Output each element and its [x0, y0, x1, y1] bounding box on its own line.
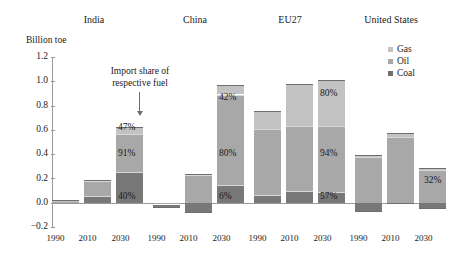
segment-coal-negative	[419, 203, 446, 210]
group-header-india: India	[44, 14, 144, 25]
segment-gas	[318, 80, 345, 126]
segment-oil	[217, 95, 244, 186]
ytick-label-0-6: 0.6	[22, 125, 48, 135]
legend-swatch-gas-icon	[388, 47, 393, 52]
legend-item-oil[interactable]: Oil	[388, 55, 415, 67]
bar-eu27-2010[interactable]	[286, 57, 313, 227]
annotation-line-2: respective fuel	[112, 78, 168, 88]
ytick-label-0-8: 0.8	[22, 101, 48, 111]
legend-swatch-coal-icon	[388, 71, 393, 76]
segment-gas	[286, 84, 313, 126]
callout-china-gas: 42%	[219, 92, 236, 102]
segment-oil	[318, 126, 345, 192]
callout-united-states-oil: 32%	[424, 175, 441, 185]
annotation-line-1: Import share of	[111, 66, 170, 76]
xtick-label-eu27-2010: 2010	[276, 233, 303, 243]
callout-india-oil: 91%	[118, 148, 135, 158]
bar-united-states-2010[interactable]	[387, 57, 414, 227]
xtick-label-united-states-2030: 2030	[410, 233, 437, 243]
callout-eu27-gas: 80%	[320, 88, 337, 98]
xtick-label-eu27-1990: 1990	[244, 233, 271, 243]
group-header-eu27: EU27	[240, 14, 340, 25]
segment-gas	[254, 111, 281, 129]
callout-china-coal: 6%	[219, 191, 232, 201]
segment-oil	[355, 157, 382, 203]
xtick-label-india-1990: 1990	[42, 233, 69, 243]
callout-china-oil: 80%	[219, 148, 236, 158]
group-header-china: China	[145, 14, 245, 25]
xtick-label-eu27-2030: 2030	[309, 233, 336, 243]
segment-oil	[254, 129, 281, 195]
xtick-label-china-2010: 2010	[175, 233, 202, 243]
segment-oil	[387, 137, 414, 203]
callout-eu27-coal: 57%	[320, 191, 337, 201]
legend-label-oil: Oil	[397, 55, 409, 67]
bar-eu27-2030[interactable]	[318, 57, 345, 227]
y-axis-title: Billion toe	[26, 35, 66, 45]
legend-item-coal[interactable]: Coal	[388, 67, 415, 79]
callout-eu27-oil: 94%	[320, 148, 337, 158]
xtick-label-united-states-1990: 1990	[345, 233, 372, 243]
segment-coal-negative	[355, 203, 382, 213]
legend: Gas Oil Coal	[388, 43, 415, 79]
segment-oil	[286, 126, 313, 190]
bar-india-1990[interactable]	[52, 57, 79, 227]
xtick-label-china-2030: 2030	[208, 233, 235, 243]
ytick-label-0-0: 0.0	[22, 198, 48, 208]
segment-coal	[286, 191, 313, 203]
segment-oil	[185, 175, 212, 202]
segment-coal	[84, 196, 111, 203]
xtick-label-china-1990: 1990	[143, 233, 170, 243]
ytick-label-neg-0-2: −0.2	[18, 222, 48, 232]
segment-coal-negative	[185, 203, 212, 213]
annotation-import-share: Import share of respective fuel	[84, 66, 196, 89]
legend-label-gas: Gas	[397, 43, 412, 55]
chart-figure: India China EU27 United States Billion t…	[0, 0, 451, 259]
ytick-label-0-2: 0.2	[22, 174, 48, 184]
callout-india-gas: 47%	[118, 122, 135, 132]
bar-eu27-1990[interactable]	[254, 57, 281, 227]
bar-united-states-2030[interactable]	[419, 57, 446, 227]
ytick-label-0-4: 0.4	[22, 149, 48, 159]
xtick-label-india-2030: 2030	[107, 233, 134, 243]
xtick-label-united-states-2010: 2010	[377, 233, 404, 243]
segment-oil	[84, 181, 111, 196]
callout-india-coal: 40%	[118, 191, 135, 201]
bar-united-states-1990[interactable]	[355, 57, 382, 227]
segment-coal	[254, 195, 281, 203]
segment-coal-negative	[387, 203, 414, 205]
annotation-arrow-icon	[139, 92, 140, 112]
ytick-label-1-2: 1.2	[22, 52, 48, 62]
legend-label-coal: Coal	[397, 67, 415, 79]
segment-coal-negative	[153, 205, 180, 209]
ytick-label-1-0: 1.0	[22, 76, 48, 86]
segment-oil	[52, 202, 79, 203]
group-header-united-states: United States	[336, 14, 446, 25]
xtick-label-india-2010: 2010	[74, 233, 101, 243]
y-tick-neg-0-2	[51, 227, 55, 228]
bar-china-2030[interactable]	[217, 57, 244, 227]
legend-item-gas[interactable]: Gas	[388, 43, 415, 55]
legend-swatch-oil-icon	[388, 59, 393, 64]
